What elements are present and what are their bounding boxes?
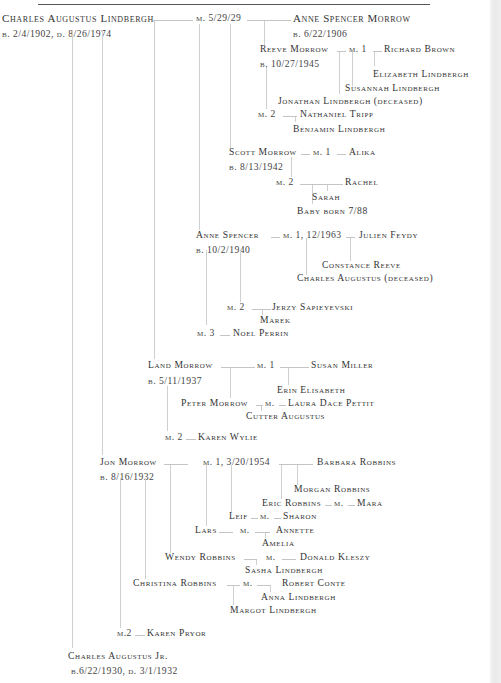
- connector: [153, 20, 193, 21]
- leif-m: m.: [260, 510, 270, 522]
- leif-spouse: Sharon: [283, 510, 317, 522]
- connector: [206, 465, 207, 526]
- anne-m1-spouse: Julien Feydy: [359, 229, 418, 241]
- jon-m2: m.2: [117, 627, 132, 639]
- jon-m1-spouse: Barbara Robbins: [317, 456, 396, 468]
- scott-m2-spouse: Rachel: [345, 176, 378, 188]
- connector: [135, 635, 145, 636]
- reeve-m1-spouse: Richard Brown: [384, 43, 455, 55]
- anne-name: Anne Spencer: [196, 229, 259, 241]
- lars-spouse: Annette: [276, 524, 314, 536]
- jon-child: Morgan Robbins: [294, 483, 370, 495]
- connector: [325, 505, 332, 506]
- lars-child: Amelia: [262, 537, 295, 549]
- christina-spouse: Robert Conte: [282, 577, 346, 589]
- wendy-m: m.: [266, 551, 276, 563]
- connector: [300, 184, 343, 185]
- connector: [281, 465, 282, 499]
- connector: [279, 405, 286, 406]
- scott-m2: m. 2: [276, 176, 294, 188]
- land-m2-spouse: Karen Wylie: [198, 431, 258, 443]
- root-name: Charles Augustus Lindbergh: [2, 12, 154, 24]
- anne-child: Constance Reeve: [322, 259, 401, 271]
- connector: [271, 237, 280, 238]
- peter-m: m.: [265, 397, 275, 409]
- connector: [295, 117, 296, 122]
- connector: [374, 52, 375, 66]
- charles-jr-name: Charles Augustus Jr.: [68, 650, 168, 662]
- connector: [219, 532, 233, 533]
- connector: [231, 465, 232, 512]
- scott-child: Sarah: [312, 191, 340, 203]
- scott-name: Scott Morrow: [229, 146, 297, 158]
- jon-child: Wendy Robbins: [165, 551, 236, 563]
- page-edge: [490, 0, 501, 683]
- peter-spouse: Laura Dace Pettit: [288, 397, 374, 409]
- connector: [339, 52, 340, 94]
- jon-name: Jon Morrow: [100, 456, 157, 468]
- connector: [220, 335, 230, 336]
- connector: [301, 154, 310, 155]
- jon-dates: b. 8/16/1932: [100, 471, 154, 483]
- land-dates: b. 5/11/1937: [148, 375, 202, 387]
- anne-m3: m. 3: [197, 327, 215, 339]
- anne-m2: m. 2: [227, 301, 245, 313]
- reeve-child: Jonathan Lindbergh (deceased): [278, 95, 423, 107]
- connector: [266, 67, 267, 109]
- christina-child: Anna Lindbergh: [261, 591, 336, 603]
- wendy-spouse: Donald Kleszy: [300, 551, 370, 563]
- root-dates: b. 2/4/1902, d. 8/26/1974: [2, 28, 112, 40]
- connector: [280, 367, 309, 368]
- jon-child: Lars: [195, 524, 217, 536]
- connector: [348, 505, 355, 506]
- connector: [306, 238, 307, 275]
- connector: [255, 532, 270, 533]
- connector: [206, 250, 207, 325]
- top-rule: [38, 4, 430, 5]
- reeve-name: Reeve Morrow: [260, 43, 328, 55]
- reeve-m2-child: Benjamin Lindbergh: [293, 123, 385, 135]
- land-name: Land Morrow: [148, 359, 213, 371]
- line-to-anne: [199, 24, 200, 230]
- christina-child: Margot Lindbergh: [230, 604, 317, 616]
- anne-child: Charles Augustus (deceased): [297, 272, 433, 284]
- charles-jr-dates: b.6/22/1930, d. 3/1/1932: [71, 665, 178, 677]
- line-to-charles-jr: [72, 30, 73, 648]
- connector: [279, 464, 313, 465]
- line-to-land: [154, 21, 155, 359]
- scott-dates: b. 8/13/1942: [229, 161, 283, 173]
- connector: [145, 478, 146, 579]
- reeve-dates: b. 10/27/1945: [260, 58, 320, 70]
- connector: [186, 439, 196, 440]
- connector: [167, 386, 168, 431]
- connector: [274, 518, 281, 519]
- land-child: Peter Morrow: [181, 397, 248, 409]
- christina-m: m.: [243, 577, 253, 589]
- peter-child: Cutter Augustus: [246, 410, 325, 422]
- connector: [288, 368, 289, 385]
- connector: [120, 478, 121, 628]
- scott-child: Baby born 7/88: [297, 205, 368, 217]
- line-to-reeve: [264, 21, 265, 45]
- anne-dates: b. 10/2/1940: [196, 244, 250, 256]
- jon-m1: m. 1, 3/20/1954: [203, 456, 270, 468]
- connector: [337, 154, 346, 155]
- jon-child: Christina Robbins: [133, 577, 217, 589]
- connector: [164, 464, 188, 465]
- connector: [221, 367, 255, 368]
- scott-m1-spouse: Alika: [349, 146, 376, 158]
- connector: [257, 585, 271, 586]
- connector: [230, 368, 231, 398]
- connector: [297, 465, 298, 485]
- line-to-scott: [230, 24, 231, 149]
- connector: [251, 518, 258, 519]
- lars-m: m.: [240, 524, 250, 536]
- jon-m2-spouse: Karen Pryor: [147, 627, 206, 639]
- connector: [352, 52, 353, 86]
- line-to-jon: [102, 30, 103, 455]
- connector: [233, 586, 234, 605]
- connector: [291, 157, 292, 177]
- connector: [240, 250, 241, 302]
- jon-child: Eric Robbins: [262, 497, 321, 509]
- eric-spouse: Mara: [357, 497, 383, 509]
